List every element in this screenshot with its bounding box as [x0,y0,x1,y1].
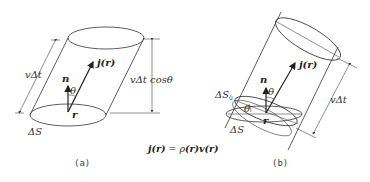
label-j: j(r) [95,57,116,68]
eq-rho: = ρ [165,143,185,154]
label-theta-top: θ [268,86,274,97]
cylinder-side-left [225,12,281,128]
label-height: vΔt cosθ [130,74,173,85]
diagram-canvas: vΔt vΔt cosθ n θ j(r) r ΔS (a) j(r) = ρ(… [0,0,370,182]
label-n: n [62,73,69,84]
label-j: j(r) [297,59,318,70]
label-r: r [263,115,269,126]
label-dS: ΔS [27,126,42,137]
label-dS0-main: ΔS [214,89,229,100]
eq-rho-arg: (r) [185,143,199,154]
label-dS0-sub: 0 [229,94,233,101]
equation-current-density: j(r) = ρ(r)v(r) [146,143,219,154]
eq-v-arg: (r) [205,143,219,154]
label-dS: ΔS [229,124,244,135]
panel-b: vΔt n θ θ j(r) r ΔS0 ΔS (b) [214,10,357,168]
label-r: r [72,109,78,120]
caption-b: (b) [272,158,288,168]
label-dS0: ΔS0 [214,89,233,101]
dimension-extension-top [337,58,357,68]
figure: vΔt vΔt cosθ n θ j(r) r ΔS (a) j(r) = ρ(… [0,0,370,182]
caption-a: (a) [74,158,90,168]
angle-arc-top [266,97,274,99]
dimension-extension-bottom [296,128,316,138]
eq-j-arg: (r) [151,143,165,154]
label-theta-side: θ [244,103,250,114]
label-slant-length: vΔt [25,69,43,80]
label-n: n [260,74,267,85]
label-length: vΔt [330,94,348,105]
label-theta: θ [70,85,76,96]
top-face [68,27,144,49]
